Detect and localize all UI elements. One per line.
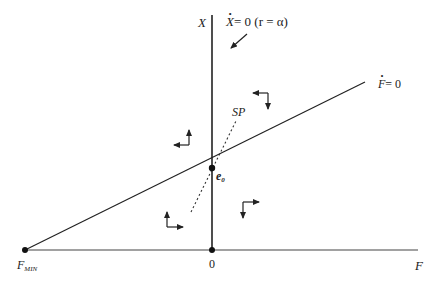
equilibrium-point (209, 165, 215, 171)
saddle-path-label: SP (232, 106, 245, 118)
x-dot-cond: (r = α) (254, 14, 288, 29)
equilibrium-subscript: 0 (221, 176, 225, 184)
f-axis-label: F (415, 259, 423, 272)
f-min-point (22, 247, 28, 253)
x-dot-zero-label: X= 0 (r = α) (226, 15, 288, 28)
f-dot-eq: = 0 (385, 77, 401, 91)
f-min-subscript: MIN (24, 265, 37, 273)
phase-arrow-lower-right-icon (243, 202, 259, 218)
equilibrium-label: e0 (216, 170, 225, 184)
f-dot-zero-line (25, 82, 365, 250)
origin-label: 0 (209, 258, 215, 270)
x-dot-var: X (226, 15, 234, 28)
phase-arrow-upper-right-icon (253, 93, 268, 109)
f-dot-zero-label: F= 0 (378, 78, 401, 90)
phase-arrow-lower-left-icon (167, 212, 183, 227)
phase-diagram (0, 0, 438, 283)
origin-point (209, 247, 215, 253)
x-dot-eq: = 0 (234, 14, 251, 29)
f-dot-var: F (378, 78, 385, 90)
x-axis-label: X (198, 16, 206, 29)
pointer-arrow-icon (231, 34, 247, 48)
phase-arrow-upper-left-icon (174, 130, 189, 145)
f-min-label: FMIN (17, 259, 37, 273)
